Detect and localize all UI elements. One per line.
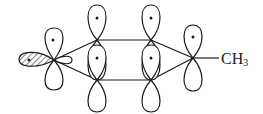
p-orbital-upper-lobe xyxy=(45,28,63,60)
atom-c-left xyxy=(19,28,72,90)
atom-c-bottom-left xyxy=(88,45,106,112)
hatched-sp2-lobe xyxy=(19,52,54,66)
electron-dot xyxy=(52,39,55,42)
orbital-diagram: CH3 xyxy=(0,0,263,114)
methyl-label: CH3 xyxy=(221,50,248,68)
p-orbital-lower-lobe xyxy=(45,60,63,90)
atom-c-bottom-right xyxy=(142,45,160,112)
